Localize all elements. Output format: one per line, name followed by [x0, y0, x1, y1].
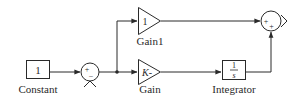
constant-block[interactable]: 1: [27, 61, 50, 79]
constant-value: 1: [35, 64, 41, 76]
gain-value: K-: [141, 67, 152, 78]
sum2-block[interactable]: + +: [261, 11, 287, 31]
sum2-sign-left: +: [264, 17, 269, 26]
gain1-value: 1: [143, 16, 148, 27]
block-diagram: 1 Constant + − 1 Gain1 K- Gain 1 s Integ…: [0, 0, 302, 103]
sum1-block[interactable]: + −: [81, 63, 99, 87]
constant-label: Constant: [18, 83, 57, 95]
sum1-bottom-port-icon: [84, 81, 96, 87]
signal-branch-to-gain1: [117, 21, 137, 72]
sum2-output-port-icon: [281, 15, 287, 27]
integrator-label: Integrator: [212, 83, 256, 95]
integrator-block[interactable]: 1 s: [223, 61, 246, 80]
sum1-sign-minus: −: [89, 72, 94, 81]
signal-integrator-to-sum2: [246, 32, 271, 72]
gain1-label: Gain1: [137, 35, 164, 47]
integrator-numerator: 1: [232, 61, 236, 70]
integrator-denominator: s: [232, 71, 235, 80]
gain-block[interactable]: K-: [139, 60, 161, 85]
gain1-block[interactable]: 1: [139, 8, 161, 35]
sum2-sign-bottom: +: [269, 22, 274, 31]
gain-label: Gain: [139, 83, 161, 95]
